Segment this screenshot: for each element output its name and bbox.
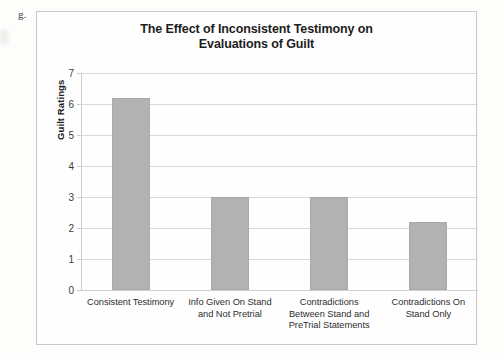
gridline-7 xyxy=(81,73,478,74)
x-axis-label-line: Between Stand and xyxy=(280,309,379,321)
chart-title: The Effect of Inconsistent Testimony on … xyxy=(37,22,476,52)
x-axis-label-line: Info Given On Stand xyxy=(180,297,279,309)
x-axis-category-labels: Consistent TestimonyInfo Given On Standa… xyxy=(81,297,478,345)
y-tick-label-1: 1 xyxy=(68,254,74,265)
chart-container: The Effect of Inconsistent Testimony on … xyxy=(36,11,477,345)
x-axis-label-line: Consistent Testimony xyxy=(81,297,180,309)
x-axis-label-line: Contradictions xyxy=(280,297,379,309)
y-tick-label-6: 6 xyxy=(68,99,74,110)
y-tick-label-5: 5 xyxy=(68,130,74,141)
chart-title-line-2: Evaluations of Guilt xyxy=(63,37,450,52)
y-axis-line xyxy=(81,73,82,290)
x-axis-label: Contradictions OnStand Only xyxy=(379,297,478,320)
y-tick-mark-0 xyxy=(77,290,81,291)
x-axis-label: Consistent Testimony xyxy=(81,297,180,309)
y-tick-label-0: 0 xyxy=(68,285,74,296)
y-tick-label-2: 2 xyxy=(68,223,74,234)
x-axis-label-line: Contradictions On xyxy=(379,297,478,309)
y-tick-mark-6 xyxy=(77,104,81,105)
chart-title-line-1: The Effect of Inconsistent Testimony on xyxy=(63,22,450,37)
y-tick-mark-3 xyxy=(77,197,81,198)
y-tick-mark-5 xyxy=(77,135,81,136)
y-tick-label-3: 3 xyxy=(68,192,74,203)
x-axis-label: Info Given On Standand Not Pretrial xyxy=(180,297,279,320)
y-tick-mark-4 xyxy=(77,166,81,167)
list-item-marker: g. xyxy=(18,8,27,20)
scan-artifact xyxy=(0,30,8,44)
y-tick-mark-2 xyxy=(77,228,81,229)
gridline-0 xyxy=(81,290,478,291)
bar[interactable] xyxy=(112,98,150,290)
bar[interactable] xyxy=(310,197,348,290)
y-tick-label-7: 7 xyxy=(68,68,74,79)
x-axis-label-line: and Not Pretrial xyxy=(180,309,279,321)
y-tick-mark-7 xyxy=(77,73,81,74)
x-axis-label-line: PreTrial Statements xyxy=(280,320,379,332)
y-tick-label-4: 4 xyxy=(68,161,74,172)
page-background: g. The Effect of Inconsistent Testimony … xyxy=(0,0,504,359)
plot-area: 76543210 xyxy=(81,73,478,290)
bar[interactable] xyxy=(211,197,249,290)
bar[interactable] xyxy=(409,222,447,290)
x-axis-label-line: Stand Only xyxy=(379,309,478,321)
y-axis-title: Guilt Ratings xyxy=(55,80,66,140)
y-tick-mark-1 xyxy=(77,259,81,260)
x-axis-label: ContradictionsBetween Stand andPreTrial … xyxy=(280,297,379,332)
